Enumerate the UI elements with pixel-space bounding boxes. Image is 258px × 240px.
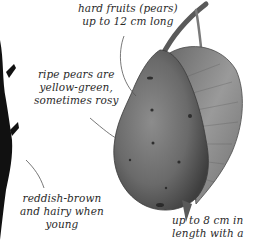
- annotation-line: up to 12 cm long: [78, 15, 178, 28]
- annotation-line: reddish-brown: [20, 192, 104, 205]
- annotation-leaf: up to 8 cm in length with a: [172, 214, 244, 240]
- pear-field-guide-page: hard fruits (pears) up to 12 cm long rip…: [0, 0, 258, 240]
- twig-icon: [0, 40, 19, 240]
- annotation-twig: reddish-brown and hairy when young: [20, 192, 104, 231]
- annotation-line: ripe pears are: [34, 68, 118, 81]
- annotation-line: yellow-green,: [34, 81, 118, 94]
- annotation-fruit-size: hard fruits (pears) up to 12 cm long: [78, 2, 178, 28]
- annotation-line: hard fruits (pears): [78, 2, 178, 15]
- annotation-line: length with a: [172, 227, 244, 240]
- annotation-fruit-color: ripe pears are yellow-green, sometimes r…: [34, 68, 118, 107]
- annotation-line: sometimes rosy: [34, 94, 118, 107]
- annotation-line: young: [20, 218, 104, 231]
- annotation-line: up to 8 cm in: [172, 214, 244, 227]
- annotation-line: and hairy when: [20, 205, 104, 218]
